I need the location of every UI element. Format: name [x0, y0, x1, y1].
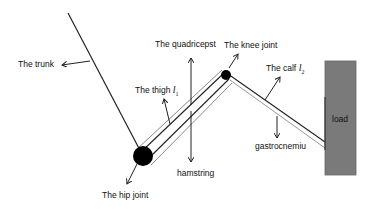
calf-label: The calf l2 [266, 62, 304, 75]
calf-arrow [265, 77, 280, 100]
calf-label-text: The calf [266, 63, 296, 73]
knee-joint-icon [221, 70, 231, 80]
hamstring-label: hamstring [177, 168, 214, 178]
quadriceps-label: The quadricepst [155, 39, 216, 49]
hip-joint-arrow [127, 164, 137, 184]
thigh-arrow [164, 99, 170, 124]
thigh-label-text: The thigh [135, 85, 170, 95]
hip-joint-icon [133, 146, 153, 166]
thigh-outer-top [136, 70, 222, 150]
thigh-length-symbol: l1 [173, 84, 179, 95]
knee-joint-arrow [229, 54, 238, 68]
trunk-line [68, 13, 143, 156]
thigh-subscript: 1 [176, 91, 179, 97]
trunk-label: The trunk [18, 59, 54, 69]
trunk-arrow [62, 61, 90, 65]
gastrocnemius-label: gastrocnemiu [255, 141, 306, 151]
hip-joint-label: The hip joint [102, 190, 148, 200]
knee-joint-label: The knee joint [224, 40, 277, 50]
load-label: load [332, 114, 348, 124]
thigh-label: The thigh l1 [135, 84, 179, 97]
calf-length-symbol: l2 [299, 62, 305, 73]
calf-subscript: 2 [301, 69, 304, 75]
